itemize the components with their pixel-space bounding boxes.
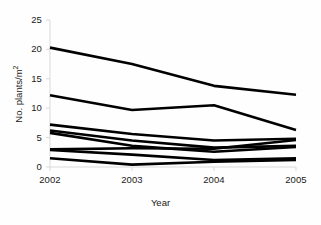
x-axis-title: Year	[0, 197, 321, 208]
x-tick-label-2005: 2005	[276, 174, 316, 185]
data-series-group	[50, 48, 296, 165]
y-tick-label-25: 25	[20, 14, 42, 25]
y-axis-ticks	[46, 20, 50, 167]
x-axis-ticks	[50, 167, 296, 171]
y-tick-label-0: 0	[20, 161, 42, 172]
x-tick-label-2003: 2003	[112, 174, 152, 185]
line-chart-plot	[0, 0, 321, 225]
data-line-series-2	[50, 95, 296, 130]
y-axis-title-text: No. plants/m	[13, 69, 24, 122]
x-tick-label-2002: 2002	[30, 174, 70, 185]
y-axis-title-superscript: 2	[12, 65, 19, 69]
y-axis-title: No. plants/m2	[12, 49, 24, 139]
data-line-series-1	[50, 48, 296, 95]
x-tick-label-2004: 2004	[194, 174, 234, 185]
chart-figure: 25 20 15 10 5 0 2002 2003 2004 2005 No. …	[0, 0, 321, 225]
data-line-series-7	[50, 150, 296, 160]
